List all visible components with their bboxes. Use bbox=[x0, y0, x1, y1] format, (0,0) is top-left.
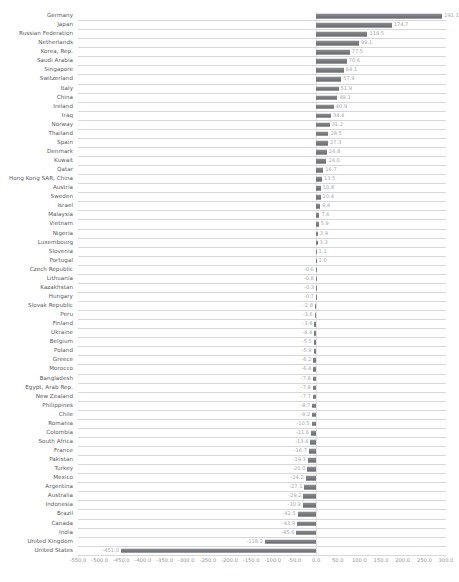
bar[interactable] bbox=[304, 485, 316, 490]
bar[interactable] bbox=[316, 231, 318, 236]
bar[interactable] bbox=[316, 50, 350, 55]
bar[interactable] bbox=[316, 295, 317, 300]
bar[interactable] bbox=[316, 23, 392, 28]
bar[interactable] bbox=[315, 304, 316, 309]
bar[interactable] bbox=[316, 104, 334, 109]
bar[interactable] bbox=[316, 286, 317, 291]
bar[interactable] bbox=[316, 141, 328, 146]
bar[interactable] bbox=[316, 68, 344, 73]
bar[interactable] bbox=[309, 449, 316, 454]
chart-row: Turkey-20.0 bbox=[78, 465, 446, 474]
bar[interactable] bbox=[298, 512, 316, 517]
bar[interactable] bbox=[313, 367, 316, 372]
chart-row: Lithuania-0.8 bbox=[78, 275, 446, 284]
bar[interactable] bbox=[303, 494, 316, 499]
bar[interactable] bbox=[312, 422, 317, 427]
category-label: Argentina bbox=[45, 484, 73, 490]
bar[interactable] bbox=[316, 168, 323, 173]
bar[interactable] bbox=[313, 385, 316, 390]
bar[interactable] bbox=[121, 548, 316, 553]
x-axis-tick-label: -200.0 bbox=[221, 558, 238, 563]
bar[interactable] bbox=[313, 376, 316, 381]
bar-value-label: 10.8 bbox=[323, 186, 334, 191]
bar[interactable] bbox=[316, 213, 319, 218]
bar[interactable] bbox=[303, 503, 316, 508]
chart-row: Portugal1.0 bbox=[78, 257, 446, 266]
chart-row: Argentina-27.1 bbox=[78, 483, 446, 492]
bar[interactable] bbox=[316, 14, 442, 19]
chart-row: Israel9.4 bbox=[78, 202, 446, 211]
chart-row: Italy51.9 bbox=[78, 85, 446, 94]
bar-value-label: 1.1 bbox=[319, 249, 327, 254]
bar[interactable] bbox=[316, 240, 317, 245]
chart-row: Norway31.2 bbox=[78, 121, 446, 130]
category-label: Australia bbox=[48, 494, 73, 500]
bar[interactable] bbox=[316, 122, 330, 127]
bar-value-label: -9.2 bbox=[300, 412, 310, 417]
chart-row: Greece-6.2 bbox=[78, 356, 446, 365]
chart-row: China49.1 bbox=[78, 94, 446, 103]
category-label: Indonesia bbox=[45, 503, 73, 509]
bar[interactable] bbox=[315, 313, 317, 318]
bar[interactable] bbox=[316, 132, 328, 137]
bar[interactable] bbox=[313, 358, 316, 363]
bar[interactable] bbox=[316, 277, 317, 282]
bar-value-label: 40.9 bbox=[336, 104, 347, 109]
bar[interactable] bbox=[316, 204, 320, 209]
category-label: Canada bbox=[51, 521, 73, 527]
category-label: Slovenia bbox=[49, 249, 73, 255]
bar[interactable] bbox=[316, 86, 338, 91]
bar[interactable] bbox=[316, 150, 327, 155]
bar[interactable] bbox=[316, 195, 321, 200]
bar-value-label: 77.5 bbox=[352, 50, 363, 55]
bar[interactable] bbox=[316, 177, 322, 182]
category-label: Slovak Republic bbox=[28, 303, 73, 309]
category-label: Saudi Arabia bbox=[37, 59, 73, 65]
category-label: Poland bbox=[54, 349, 73, 355]
bar-value-label: 3.3 bbox=[320, 240, 328, 245]
bar[interactable] bbox=[312, 412, 316, 417]
bar[interactable] bbox=[307, 467, 316, 472]
bar[interactable] bbox=[314, 331, 316, 336]
bar[interactable] bbox=[314, 322, 316, 327]
bar-value-label: -7.8 bbox=[301, 385, 311, 390]
bar[interactable] bbox=[316, 113, 331, 118]
bar[interactable] bbox=[308, 458, 316, 463]
chart-row: Kazakhstan-0.3 bbox=[78, 284, 446, 293]
x-axis-tick-label: -300.0 bbox=[178, 558, 195, 563]
bar[interactable] bbox=[296, 530, 316, 535]
bar-value-label: -7.8 bbox=[301, 376, 311, 381]
x-axis-tick-label: -500.0 bbox=[91, 558, 108, 563]
bar[interactable] bbox=[316, 249, 317, 254]
bar[interactable] bbox=[316, 222, 319, 227]
bar[interactable] bbox=[314, 349, 317, 354]
bar[interactable] bbox=[311, 431, 316, 436]
bar[interactable] bbox=[314, 340, 316, 345]
bar[interactable] bbox=[316, 77, 341, 82]
bar[interactable] bbox=[312, 403, 316, 408]
bar[interactable] bbox=[316, 32, 367, 37]
chart-row: Saudi Arabia70.6 bbox=[78, 57, 446, 66]
bar[interactable] bbox=[297, 521, 316, 526]
bar[interactable] bbox=[306, 476, 316, 481]
bar-value-label: 16.7 bbox=[325, 168, 336, 173]
x-axis-tick-label: -450.0 bbox=[113, 558, 130, 563]
bar[interactable] bbox=[316, 59, 347, 64]
bar[interactable] bbox=[316, 258, 317, 263]
bar[interactable] bbox=[316, 41, 359, 46]
category-label: Pakistan bbox=[49, 457, 73, 463]
bar[interactable] bbox=[310, 440, 316, 445]
bar[interactable] bbox=[313, 394, 316, 399]
bar[interactable] bbox=[316, 95, 337, 100]
category-label: Bangladesh bbox=[40, 376, 73, 382]
bar-value-label: 57.9 bbox=[343, 77, 354, 82]
bar[interactable] bbox=[316, 267, 317, 272]
bar[interactable] bbox=[316, 186, 321, 191]
category-label: Peru bbox=[60, 312, 73, 318]
category-label: Portugal bbox=[49, 258, 73, 264]
bar-value-label: -29.2 bbox=[288, 494, 301, 499]
bar[interactable] bbox=[316, 159, 326, 164]
bar-value-label: 49.1 bbox=[339, 95, 350, 100]
x-axis-tick-label: 250.0 bbox=[417, 558, 432, 563]
bar[interactable] bbox=[265, 539, 316, 544]
